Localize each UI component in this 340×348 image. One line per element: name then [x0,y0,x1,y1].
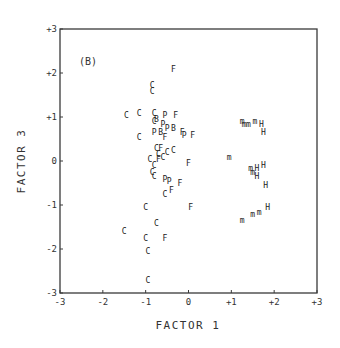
point-h: H [265,203,270,212]
scatter-chart: (B) -3-2-10+1+2+3 -3-2-10+1+2+3 FACTOR 1… [0,0,340,348]
point-c: C [145,247,150,256]
point-b: B [158,128,163,137]
y-tick-label: +3 [46,24,57,34]
x-tick-label: +1 [226,297,237,307]
point-p: P [152,128,157,137]
point-c: C [137,109,142,118]
point-c: C [150,87,155,96]
x-tick-label: +2 [269,297,280,307]
point-f: F [158,144,163,153]
point-h: H [255,164,260,173]
point-f: F [186,159,191,168]
point-m: m [227,153,232,162]
point-h: H [263,181,268,190]
point-c: C [148,155,153,164]
point-c: C [171,146,176,155]
panel-label: (B) [79,56,97,67]
point-p: P [167,177,172,186]
point-m: m [257,208,262,217]
point-c: C [143,234,148,243]
point-m: m [250,210,255,219]
point-f: F [171,65,176,74]
point-h: H [261,161,266,170]
point-f: F [188,203,193,212]
point-f: F [173,111,178,120]
point-p: P [163,175,168,184]
x-tick-label: +3 [312,297,323,307]
point-p: P [165,124,170,133]
y-tick-label: +2 [46,68,57,78]
point-m: m [246,120,251,129]
point-h: H [255,172,260,181]
x-tick-label: -1 [140,297,151,307]
point-f: F [169,186,174,195]
x-tick-label: 0 [186,297,191,307]
point-m: m [252,117,257,126]
point-c: C [152,172,157,181]
point-f: F [178,179,183,188]
x-tick-label: -3 [55,297,66,307]
x-tick-label: -2 [97,297,108,307]
y-tick-label: -2 [46,244,57,254]
y-tick-label: -1 [46,200,57,210]
point-c: C [124,111,129,120]
y-tick-label: +1 [46,112,57,122]
point-c: C [122,227,127,236]
point-p: P [182,131,187,140]
x-axis-label: FACTOR 1 [156,319,221,332]
y-tick-label: 0 [52,156,57,166]
point-h: H [261,128,266,137]
point-c: C [137,133,142,142]
point-f: F [156,155,161,164]
point-b: B [171,124,176,133]
point-f: F [163,234,168,243]
point-c: C [143,203,148,212]
point-c: C [145,276,150,285]
point-c: C [154,219,159,228]
y-axis-label: FACTOR 3 [15,129,28,194]
point-p: P [163,111,168,120]
point-h: H [259,120,264,129]
point-c: C [165,148,170,157]
point-f: F [190,131,195,140]
point-c: C [163,190,168,199]
point-b: B [154,115,159,124]
point-f: F [163,133,168,142]
point-m: m [240,216,245,225]
